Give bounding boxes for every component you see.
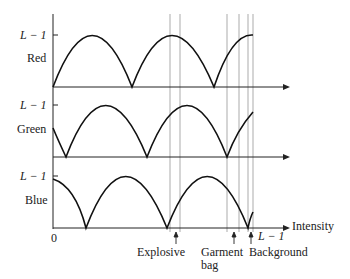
red-panel — [53, 35, 290, 90]
annotation-arrows — [174, 232, 253, 244]
rgb-transfer-diagram: L − 1 Red L − 1 Green L − 1 Blue 0 Inten… — [0, 0, 350, 279]
blue-panel — [53, 176, 290, 231]
background-label: Background — [249, 245, 308, 259]
reference-lines — [170, 14, 253, 232]
blue-tick-label: L − 1 — [19, 169, 47, 183]
red-label: Red — [27, 51, 46, 65]
green-tick-label: L − 1 — [19, 98, 47, 112]
green-panel — [53, 105, 290, 160]
red-tick-label: L − 1 — [19, 28, 47, 42]
blue-label: Blue — [25, 193, 48, 207]
garment-label-line1: Garment — [201, 245, 244, 259]
x-max-label: L − 1 — [257, 229, 285, 243]
explosive-label: Explosive — [137, 245, 185, 259]
garment-label-line2: bag — [201, 258, 218, 272]
x-axis-label: Intensity — [292, 219, 334, 233]
green-label: Green — [17, 122, 46, 136]
origin-label: 0 — [51, 231, 57, 245]
